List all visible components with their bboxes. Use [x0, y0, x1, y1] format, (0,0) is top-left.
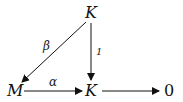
arrow-beta	[22, 22, 86, 82]
node-zero: 0	[164, 83, 174, 99]
label-identity: 1	[96, 47, 102, 57]
node-m: M	[7, 83, 23, 99]
node-k-bottom: K	[85, 83, 97, 99]
node-k-top: K	[85, 5, 97, 21]
label-alpha: α	[49, 76, 57, 88]
label-beta: β	[43, 40, 50, 52]
